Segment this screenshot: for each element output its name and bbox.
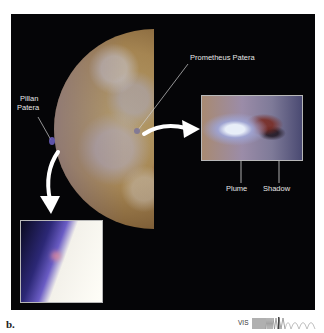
pillan-patera-label-line2: Patera xyxy=(17,103,39,112)
prometheus-inset-image xyxy=(201,95,303,161)
pillan-plume-marker xyxy=(49,137,55,145)
arrow-down-icon xyxy=(36,148,66,218)
shadow-label: Shadow xyxy=(263,184,290,193)
arrow-right-icon xyxy=(140,118,202,142)
visible-spectrum-wave-icon xyxy=(252,316,316,330)
figure-label: b. xyxy=(6,318,15,330)
plume-label: Plume xyxy=(226,184,247,193)
vis-label: VIS xyxy=(238,319,248,326)
pillan-inset-image xyxy=(20,220,103,303)
pillan-patera-label-line1: Pillan xyxy=(20,94,38,103)
